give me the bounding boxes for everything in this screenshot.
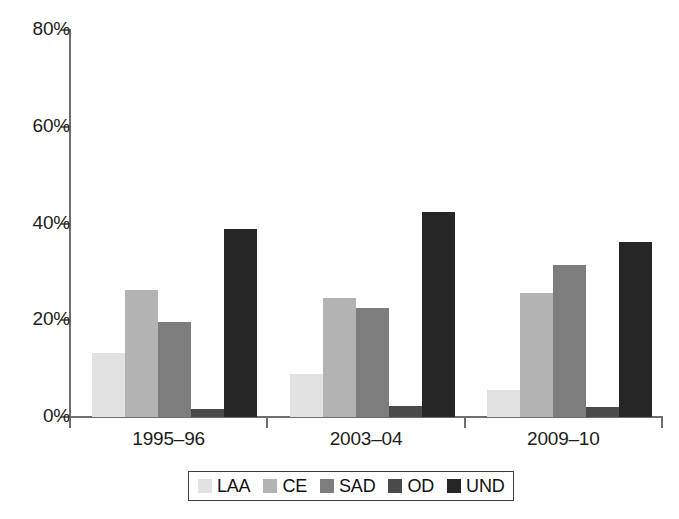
y-tick-20: 20% [0,319,70,321]
legend-item-ce[interactable]: CE [263,477,307,495]
legend-label: LAA [217,477,250,495]
bar-od-0 [191,409,224,417]
legend-swatch-icon [388,479,402,493]
y-tick-label: 20% [18,309,70,328]
x-axis-label-1: 2003–04 [296,428,436,450]
legend-item-sad[interactable]: SAD [320,477,375,495]
legend-swatch-icon [447,479,461,493]
bar-od-2 [586,407,619,417]
legend-swatch-icon [263,479,277,493]
legend-label: CE [282,477,307,495]
x-tick-mark [69,418,71,428]
legend-label: SAD [339,477,375,495]
bar-od-1 [389,406,422,417]
bar-chart: 0%20%40%60%80% 1995–962003–042009–10 LAA… [0,0,679,519]
legend-label: OD [407,477,434,495]
bar-sad-1 [356,308,389,417]
bar-ce-0 [125,290,158,417]
y-tick-label: 80% [18,19,70,38]
x-tick-mark [464,418,466,428]
x-axis-label-2: 2009–10 [493,428,633,450]
legend-swatch-icon [320,479,334,493]
bar-sad-0 [158,322,191,417]
bar-und-1 [422,212,455,417]
legend-item-und[interactable]: UND [447,477,504,495]
legend-swatch-icon [198,479,212,493]
bar-sad-2 [553,265,586,417]
y-tick-label: 40% [18,213,70,232]
y-tick-label: 0% [18,406,70,425]
chart-legend: LAACESADODUND [188,471,514,501]
y-tick-60: 60% [0,126,70,128]
legend-item-od[interactable]: OD [388,477,434,495]
x-tick-mark [266,418,268,428]
plot-area [70,30,662,417]
y-tick-0: 0% [0,416,70,418]
y-tick-40: 40% [0,223,70,225]
bar-laa-1 [290,374,323,417]
bar-und-2 [619,242,652,417]
bar-laa-2 [487,390,520,417]
bar-laa-0 [92,353,125,417]
y-tick-label: 60% [18,116,70,135]
x-axis-label-0: 1995–96 [99,428,239,450]
legend-label: UND [466,477,504,495]
legend-item-laa[interactable]: LAA [198,477,250,495]
y-tick-80: 80% [0,29,70,31]
bar-ce-2 [520,293,553,417]
bar-ce-1 [323,298,356,417]
x-tick-mark [661,418,663,428]
bar-und-0 [224,229,257,417]
